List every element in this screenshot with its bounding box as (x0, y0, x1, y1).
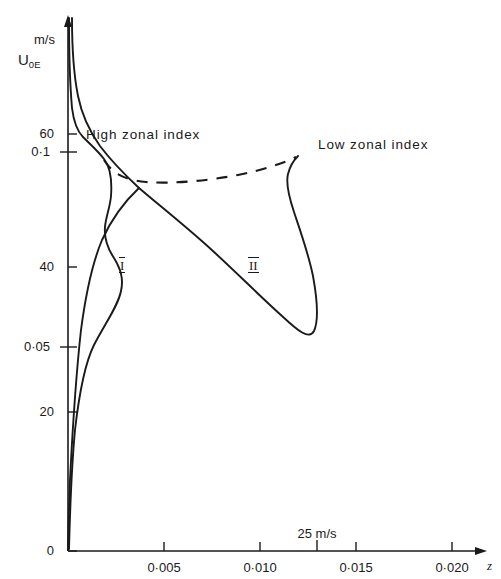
y-axis-arrowhead (64, 15, 72, 27)
y-axis-variable-subscript: 0E (29, 59, 41, 70)
curve-label-1: I (119, 257, 125, 273)
curve-low-zonal-index-tail (68, 188, 139, 550)
y-axis-variable-symbol: U (18, 51, 29, 68)
curve-label-2: II (248, 257, 259, 273)
chart-plot-area (0, 0, 501, 579)
y-tick-label-0: 0 (16, 544, 54, 557)
y-tick-label-0-1: 0·1 (2, 145, 50, 158)
y-tick-label-40: 40 (16, 260, 54, 273)
x-axis-arrowhead (475, 547, 487, 555)
chart-figure: m/s U0E 60 40 20 0 0·1 0·05 0·005 0·010 … (0, 0, 501, 579)
x-tick-label-0-015: 0·015 (316, 561, 396, 574)
scale-marker-label: 25 m/s (277, 527, 357, 540)
annotation-high-zonal-index: High zonal index (86, 128, 200, 142)
y-tick-label-20: 20 (16, 405, 54, 418)
annotation-low-zonal-index: Low zonal index (318, 138, 428, 152)
x-axis-name-label: z (487, 559, 492, 572)
y-axis-unit-label: m/s (34, 33, 55, 46)
curve-low-zonal-index (72, 18, 317, 335)
y-axis-variable-label: U0E (18, 52, 40, 67)
y-tick-label-60: 60 (16, 127, 54, 140)
x-tick-label-0-010: 0·010 (220, 561, 300, 574)
dashed-transition-curve (104, 157, 296, 183)
curve-high-zonal-index (69, 18, 122, 549)
x-tick-label-0-020: 0·020 (412, 561, 492, 574)
x-tick-label-0-005: 0·005 (124, 561, 204, 574)
y-tick-label-0-05: 0·05 (2, 340, 50, 353)
